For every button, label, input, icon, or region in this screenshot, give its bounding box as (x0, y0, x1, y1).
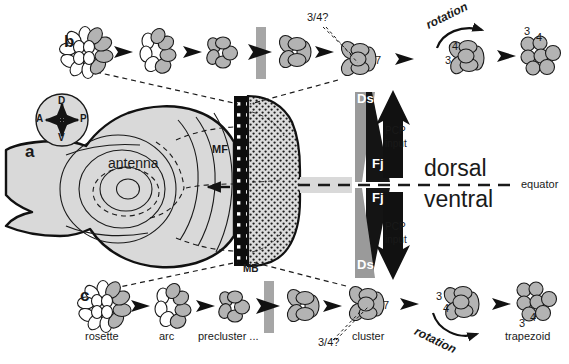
c-arrow-6 (492, 298, 511, 310)
ds-label-dorsal: Ds (357, 92, 374, 105)
b-photoreceptor-3-label: 3 (445, 55, 451, 66)
row-c-sequence (77, 279, 557, 340)
morphogenetic-furrow-band (234, 96, 248, 266)
compass-ventral-label: V (58, 133, 65, 143)
fj-label-dorsal: Fj (372, 157, 384, 170)
b-cluster-5 (276, 33, 311, 71)
b-arrow-5 (395, 53, 414, 65)
c-stage-label-arc: arc (159, 331, 174, 342)
c-photoreceptor-3-label: 3 (436, 291, 442, 302)
mb-label: MB (243, 264, 259, 274)
panel-letter-c: c (80, 287, 89, 304)
c-cluster-5 (284, 287, 319, 325)
panel-letter-a: a (25, 143, 34, 160)
c-seven-label: 7 (383, 300, 389, 311)
panel-letter-b: b (64, 33, 74, 50)
c-cluster-7 (346, 284, 384, 324)
c-arrow-5 (400, 298, 419, 310)
c-arrow-1 (131, 300, 150, 312)
equator-label: equator (521, 179, 558, 190)
b-arrow-4 (315, 46, 334, 58)
c-arrow-2 (196, 300, 215, 312)
c-arrow-4 (323, 300, 342, 312)
b-seven-label: 7 (375, 55, 381, 66)
compass-posterior-label: P (80, 114, 87, 124)
c-arc (155, 281, 191, 331)
figure-svg (0, 0, 569, 364)
pcp-input-label-ventral-line1: PCP (385, 222, 406, 232)
b-arrow-1 (114, 46, 133, 58)
c-stage-label-trapezoid: trapezoid (505, 331, 550, 342)
leader-b-left (96, 72, 238, 104)
pcp-input-label-ventral-line2: input (385, 235, 407, 245)
pcp-input-label-dorsal-line1: PCP (385, 126, 406, 136)
c-stage-label-cluster: cluster (352, 331, 384, 342)
c-precluster (217, 290, 250, 322)
fj-label-ventral: Fj (372, 191, 384, 204)
b-cluster-7 (338, 39, 376, 79)
c-trapezoid-3-label: 3 (519, 318, 525, 329)
c-trapezoid-4-label: 4 (530, 312, 536, 323)
b-34-question-label: 3/4? (307, 12, 328, 23)
b-arrow-2 (183, 46, 202, 58)
b-arc (140, 26, 176, 76)
ventral-label: ventral (424, 188, 493, 211)
ds-label-ventral: Ds (357, 258, 374, 271)
b-trapezoid-3-label: 3 (524, 26, 530, 37)
figure-canvas (0, 0, 569, 364)
pcp-input-label-dorsal-line2: input (385, 139, 407, 149)
b-photoreceptor-4-label: 4 (452, 41, 458, 52)
b-arrow-6 (497, 50, 516, 62)
c-trapezoid (517, 282, 557, 321)
compass-dorsal-label: D (58, 96, 65, 106)
c-stage-label-precluster: precluster ... (198, 331, 259, 342)
dorsal-label: dorsal (424, 157, 487, 180)
compass-anterior-label: A (36, 114, 43, 124)
b-precluster (205, 36, 238, 68)
c-stage-label-rosette: rosette (85, 331, 119, 342)
c-photoreceptor-4-label: 4 (443, 303, 449, 314)
b-trapezoid-4-label: 4 (536, 32, 542, 43)
antenna-label: antenna (108, 156, 159, 170)
mf-label: MF (212, 144, 228, 155)
c-34-question-label: 3/4? (318, 337, 339, 348)
row-b-sequence (59, 25, 561, 79)
